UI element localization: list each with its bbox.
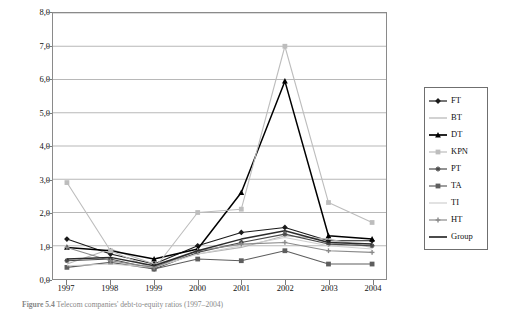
- y-tick-label: 2,0: [20, 208, 50, 218]
- data-point-marker: [283, 240, 288, 245]
- legend-label: HT: [451, 215, 462, 224]
- legend-label: KPN: [451, 147, 468, 156]
- legend-label: Group: [451, 232, 473, 241]
- legend-item-pt[interactable]: PT: [428, 160, 484, 177]
- legend-item-dt[interactable]: DT: [428, 126, 484, 143]
- legend-label: FT: [451, 96, 461, 105]
- data-point-marker: [64, 236, 70, 242]
- y-tick-label: 6,0: [20, 74, 50, 84]
- x-tick-label: 1998: [101, 283, 118, 293]
- data-point-marker: [326, 262, 331, 267]
- data-point-marker: [436, 166, 441, 171]
- data-point-marker: [370, 250, 375, 255]
- y-tick-label: 5,0: [20, 108, 50, 118]
- y-tick-label: 3,0: [20, 175, 50, 185]
- legend-item-ht[interactable]: HT: [428, 211, 484, 228]
- legend-marker-icon: [428, 180, 448, 192]
- data-point-marker: [65, 180, 70, 185]
- x-tick-label: 2001: [233, 283, 250, 293]
- data-point-marker: [326, 248, 331, 253]
- data-point-marker: [435, 98, 441, 104]
- x-tick-label: 1997: [58, 283, 75, 293]
- legend-item-ti[interactable]: TI: [428, 194, 484, 211]
- data-point-marker: [436, 217, 441, 222]
- figure-caption-label: Figure 5.4: [22, 300, 55, 309]
- y-tick-mark: [47, 280, 52, 281]
- data-point-marker: [195, 257, 200, 262]
- data-point-marker: [282, 78, 288, 83]
- y-tick-label: 4,0: [20, 141, 50, 151]
- data-point-marker: [239, 207, 244, 212]
- chart-legend: FTBTDTKPNPTTATIHTGroup: [424, 87, 488, 250]
- plot-canvas: [53, 13, 386, 279]
- x-tick-label: 2003: [321, 283, 338, 293]
- y-tick-label: 7,0: [20, 41, 50, 51]
- legend-marker-icon: [428, 129, 448, 141]
- plot-area: [52, 12, 387, 280]
- legend-marker-icon: [428, 197, 448, 209]
- legend-label: TA: [451, 181, 462, 190]
- legend-item-ft[interactable]: FT: [428, 92, 484, 109]
- legend-marker-icon: [428, 231, 448, 243]
- data-point-marker: [282, 225, 288, 231]
- data-point-marker: [238, 189, 244, 194]
- figure-caption: Figure 5.4 Telecom companies' debt-to-eq…: [22, 300, 442, 309]
- legend-label: BT: [451, 113, 462, 122]
- x-tick-label: 2000: [189, 283, 206, 293]
- x-tick-label: 2002: [277, 283, 294, 293]
- data-point-marker: [370, 220, 375, 225]
- legend-marker-icon: [428, 214, 448, 226]
- legend-label: TI: [451, 198, 459, 207]
- legend-item-kpn[interactable]: KPN: [428, 143, 484, 160]
- data-point-marker: [436, 149, 441, 154]
- x-tick-label: 2004: [365, 283, 382, 293]
- data-point-marker: [436, 183, 441, 188]
- y-tick-label: 1,0: [20, 242, 50, 252]
- legend-item-group[interactable]: Group: [428, 228, 484, 245]
- data-point-marker: [326, 200, 331, 205]
- data-point-marker: [239, 258, 244, 263]
- legend-item-ta[interactable]: TA: [428, 177, 484, 194]
- data-point-marker: [195, 210, 200, 215]
- legend-marker-icon: [428, 95, 448, 107]
- data-point-marker: [283, 248, 288, 253]
- data-point-marker: [283, 232, 288, 237]
- chart-figure: Debt (BV)/Equity (MV) 0,01,02,03,04,05,0…: [0, 0, 506, 316]
- y-tick-label: 8,0: [20, 7, 50, 17]
- x-tick-label: 1999: [145, 283, 162, 293]
- legend-label: DT: [451, 130, 462, 139]
- series-line: [67, 81, 372, 259]
- x-axis-tick-labels: 19971998199920002001200220032004: [0, 283, 506, 299]
- data-point-marker: [108, 248, 113, 253]
- legend-marker-icon: [428, 112, 448, 124]
- legend-label: PT: [451, 164, 461, 173]
- legend-marker-icon: [428, 163, 448, 175]
- data-point-marker: [283, 44, 288, 49]
- figure-caption-text: Telecom companies' debt-to-equity ratios…: [57, 300, 224, 309]
- data-point-marker: [238, 230, 244, 236]
- data-point-marker: [370, 262, 375, 267]
- legend-marker-icon: [428, 146, 448, 158]
- y-axis-tick-labels: 0,01,02,03,04,05,06,07,08,0: [20, 0, 50, 316]
- legend-item-bt[interactable]: BT: [428, 109, 484, 126]
- series-dt: [64, 78, 375, 261]
- figure-root: Debt (BV)/Equity (MV) 0,01,02,03,04,05,0…: [0, 0, 506, 316]
